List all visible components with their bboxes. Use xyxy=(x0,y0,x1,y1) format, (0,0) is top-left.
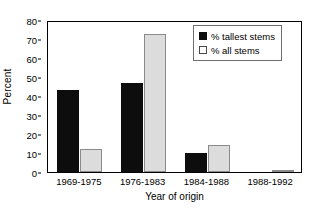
chart-legend: % tallest stems% all stems xyxy=(193,25,282,61)
x-tick-label: 1976-1983 xyxy=(120,176,165,187)
x-axis-tick-labels: 1969-19751976-19831984-19881988-1992 xyxy=(47,176,302,190)
bar xyxy=(272,170,294,172)
legend-label: % tallest stems xyxy=(211,31,275,42)
y-axis-tick-labels: 01020304050607080 xyxy=(16,21,41,173)
x-axis-title: Year of origin xyxy=(47,191,302,202)
y-tick-label: 30 xyxy=(26,111,37,122)
y-tick-mark xyxy=(38,97,41,98)
y-tick-label: 10 xyxy=(26,149,37,160)
bar xyxy=(121,83,143,172)
y-tick-label: 70 xyxy=(26,35,37,46)
legend-item: % all stems xyxy=(199,43,275,57)
y-tick-mark xyxy=(38,173,41,174)
legend-item: % tallest stems xyxy=(199,29,275,43)
y-axis-title-text: Percent xyxy=(3,69,14,105)
legend-label: % all stems xyxy=(211,45,260,56)
legend-swatch-icon xyxy=(199,32,207,40)
y-tick-label: 80 xyxy=(26,16,37,27)
bar xyxy=(208,145,230,172)
y-tick-mark xyxy=(38,154,41,155)
y-tick-mark xyxy=(38,78,41,79)
y-tick-mark xyxy=(38,40,41,41)
bar xyxy=(185,153,207,172)
y-tick-label: 50 xyxy=(26,73,37,84)
bar xyxy=(80,149,102,172)
x-tick-label: 1988-1992 xyxy=(247,176,292,187)
y-tick-label: 60 xyxy=(26,54,37,65)
y-tick-label: 20 xyxy=(26,130,37,141)
y-tick-mark xyxy=(38,116,41,117)
y-tick-mark xyxy=(38,59,41,60)
y-tick-mark xyxy=(38,21,41,22)
y-tick-mark xyxy=(38,135,41,136)
bar xyxy=(57,90,79,172)
legend-swatch-icon xyxy=(199,46,207,54)
bar-chart: Percent 01020304050607080 % tallest stem… xyxy=(0,0,310,215)
x-tick-label: 1969-1975 xyxy=(56,176,101,187)
y-axis-title: Percent xyxy=(0,0,16,173)
y-tick-label: 0 xyxy=(32,168,37,179)
bar xyxy=(144,34,166,172)
x-tick-label: 1984-1988 xyxy=(184,176,229,187)
y-tick-label: 40 xyxy=(26,92,37,103)
